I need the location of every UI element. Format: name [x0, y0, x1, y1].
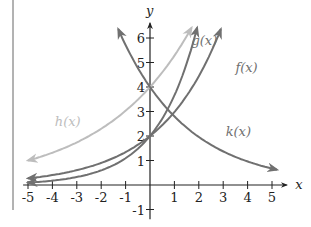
x-tick-label: -5	[22, 190, 35, 205]
y-tick-label: 3	[137, 105, 145, 120]
curve-h	[28, 28, 192, 161]
x-tick-label: -4	[46, 190, 59, 205]
axes: xy-5-4-3-2-112345-1123456	[22, 3, 304, 220]
curve-f	[28, 29, 221, 178]
y-tick-label: 6	[137, 31, 145, 46]
y-axis-label: y	[145, 3, 154, 18]
x-tick-label: 3	[219, 190, 227, 205]
x-tick-label: -1	[119, 190, 132, 205]
y-tick-label: 1	[137, 154, 145, 169]
x-tick-label: -3	[70, 190, 83, 205]
x-tick-label: 4	[243, 190, 251, 205]
curves	[28, 28, 277, 183]
x-tick-label: 2	[195, 190, 203, 205]
x-tick-label: 5	[268, 190, 276, 205]
exponential-functions-chart: xy-5-4-3-2-112345-1123456 f(x)g(x)h(x)k(…	[0, 0, 311, 227]
label-h: h(x)	[55, 114, 81, 129]
label-g: g(x)	[191, 33, 217, 48]
function-labels: f(x)g(x)h(x)k(x)	[55, 33, 258, 139]
x-axis-label: x	[295, 177, 303, 192]
curve-k	[118, 29, 277, 170]
x-tick-label: 1	[170, 190, 178, 205]
x-tick-label: -2	[95, 190, 108, 205]
label-f: f(x)	[234, 60, 257, 75]
label-k: k(x)	[226, 124, 251, 139]
y-tick-label: -1	[132, 203, 145, 218]
